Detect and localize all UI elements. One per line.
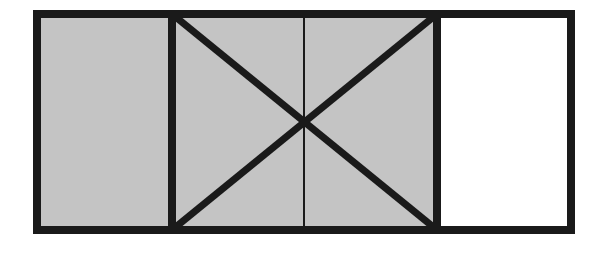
geometry-diagram: [0, 0, 596, 253]
unshaded-region-right: [437, 14, 571, 230]
shaded-region-left: [37, 14, 172, 230]
